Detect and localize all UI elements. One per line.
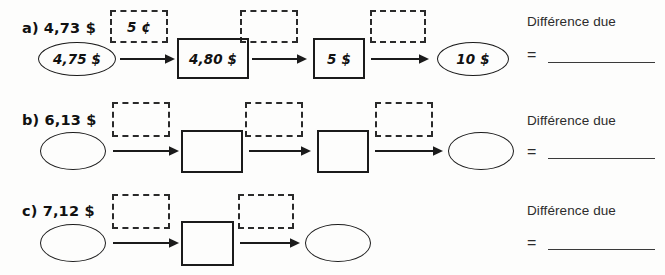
row-b-node-3[interactable] [317,130,369,173]
row-a-arrow-1 [120,53,175,65]
row-a-answer-label: Différence due [527,14,616,29]
row-c-answer-label: Différence due [527,203,616,218]
worksheet-page: a)4,73 $ 5 ¢ 4,75 $ 4,80 $ [0,0,665,275]
row-a-step-3-input[interactable] [370,10,426,43]
exercise-row-c: c)7,12 $ [0,184,665,275]
row-b-start-amount: 6,13 $ [44,112,96,128]
row-b-node-4[interactable] [448,132,514,170]
row-b-step-2-input[interactable] [245,102,303,137]
row-c-node-3[interactable] [305,224,371,262]
row-c-node-2[interactable] [181,221,234,266]
row-a-node-3-value: 5 $ [327,51,351,67]
exercise-row-b: b)6,13 $ [0,92,665,184]
row-c-node-1[interactable] [40,224,106,262]
row-c-label: c)7,12 $ [22,203,95,219]
row-a-node-4-value: 10 $ [456,51,489,67]
row-c-start-amount: 7,12 $ [43,203,95,219]
row-c-arrow-2 [240,237,300,249]
row-c-letter: c) [22,203,38,219]
row-c-step-2-input[interactable] [238,194,294,229]
row-a-node-4[interactable]: 10 $ [437,42,509,76]
row-a-answer-blank[interactable] [548,62,655,63]
row-b-step-3-input[interactable] [375,102,433,137]
row-b-label: b)6,13 $ [22,112,97,128]
row-a-label: a)4,73 $ [22,20,96,36]
row-a-node-3[interactable]: 5 $ [313,38,365,79]
row-a-letter: a) [22,20,39,36]
row-a-arrow-2 [252,53,307,65]
exercise-row-a: a)4,73 $ 5 ¢ 4,75 $ 4,80 $ [0,0,665,92]
row-a-start-amount: 4,73 $ [44,20,96,36]
row-b-arrow-1 [113,145,179,157]
row-c-step-1-input[interactable] [112,194,170,229]
row-b-node-1[interactable] [40,132,106,170]
row-a-node-2-value: 4,80 $ [189,51,237,67]
row-a-equals-sign: = [527,46,536,64]
row-a-step-1-input[interactable]: 5 ¢ [110,10,168,43]
row-b-arrow-3 [375,145,443,157]
row-a-step-1-value: 5 ¢ [127,19,151,35]
row-b-step-1-input[interactable] [112,102,170,137]
row-c-arrow-1 [113,237,179,249]
row-c-equals-sign: = [527,234,536,252]
row-a-arrow-3 [371,53,429,65]
row-b-answer-blank[interactable] [548,158,655,159]
row-b-answer-label: Différence due [527,113,616,128]
row-b-arrow-2 [249,145,311,157]
row-b-letter: b) [22,112,39,128]
row-c-answer-blank[interactable] [548,249,655,250]
row-a-node-2[interactable]: 4,80 $ [177,38,249,79]
row-a-node-1-value: 4,75 $ [53,51,101,67]
row-b-node-2[interactable] [181,130,243,173]
row-a-node-1[interactable]: 4,75 $ [38,42,116,76]
row-b-equals-sign: = [527,143,536,161]
